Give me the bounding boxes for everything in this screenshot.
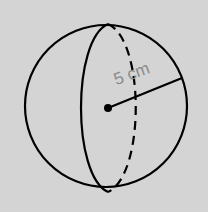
front-ellipse-arc — [81, 24, 108, 192]
center-point — [104, 104, 112, 112]
sphere-diagram: 5 cm — [0, 0, 208, 212]
sphere-figure — [0, 0, 208, 212]
back-ellipse-arc-dashed — [108, 24, 136, 192]
